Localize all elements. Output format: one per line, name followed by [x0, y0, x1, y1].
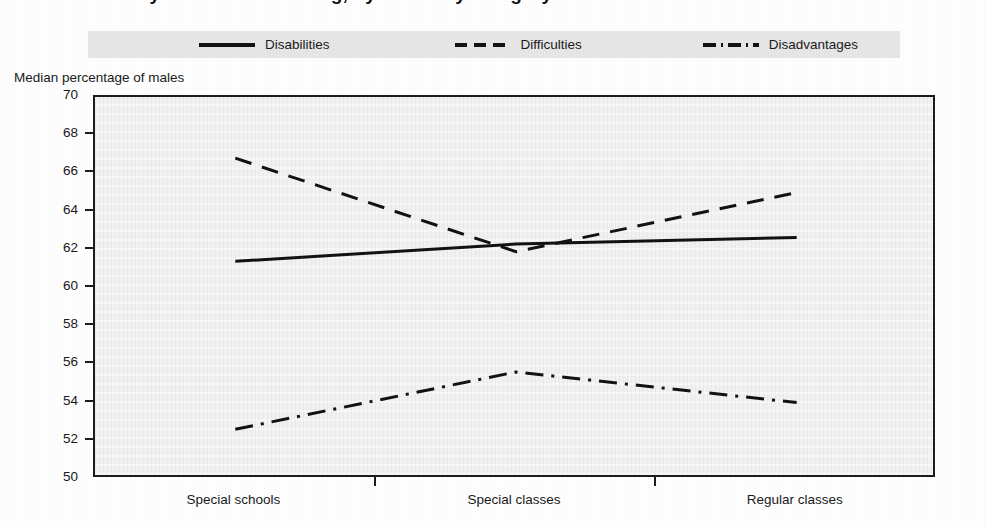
legend-item-difficulties: Difficulties: [454, 37, 582, 52]
y-tick-label: 70: [40, 88, 78, 102]
x-category-label: Regular classes: [747, 492, 843, 507]
y-tick-mark: [85, 209, 94, 211]
series-line-disadvantages: [235, 372, 796, 429]
y-tick-mark: [85, 438, 94, 440]
y-tick-mark: [85, 170, 94, 172]
series-line-disabilities: [235, 237, 796, 261]
page-background: Gender ratios by educational setting, by…: [0, 0, 985, 527]
series-line-difficulties: [235, 158, 796, 252]
y-axis-title: Median percentage of males: [14, 70, 184, 85]
y-tick-mark: [85, 247, 94, 249]
y-tick-mark: [85, 361, 94, 363]
legend-item-disabilities: Disabilities: [198, 37, 330, 52]
solid-line-swatch: [198, 39, 256, 51]
cropped-chart-title: Gender ratios by educational setting, by…: [0, 0, 985, 12]
y-tick-mark: [85, 132, 94, 134]
y-tick-mark: [85, 285, 94, 287]
y-tick-mark: [85, 400, 94, 402]
y-tick-label: 58: [40, 317, 78, 331]
chart-legend: Disabilities Difficulties Disadvantages: [88, 31, 900, 58]
y-tick-label: 54: [40, 394, 78, 408]
y-tick-mark: [85, 323, 94, 325]
chart-title-text: Gender ratios by educational setting, by…: [6, 0, 552, 5]
x-category-label: Special schools: [186, 492, 280, 507]
y-tick-label: 60: [40, 279, 78, 293]
legend-label-difficulties: Difficulties: [521, 37, 582, 52]
y-tick-label: 52: [40, 432, 78, 446]
dashed-line-swatch: [454, 39, 512, 51]
y-tick-label: 56: [40, 355, 78, 369]
y-tick-label: 64: [40, 203, 78, 217]
series-canvas: [95, 97, 935, 477]
legend-label-disadvantages: Disadvantages: [769, 37, 858, 52]
y-tick-label: 62: [40, 241, 78, 255]
y-tick-label: 68: [40, 126, 78, 140]
x-axis-separator: [654, 477, 656, 486]
y-tick-label: 50: [40, 470, 78, 484]
legend-item-disadvantages: Disadvantages: [702, 37, 858, 52]
y-tick-label: 66: [40, 164, 78, 178]
plot-area: [93, 95, 935, 477]
legend-label-disabilities: Disabilities: [265, 37, 330, 52]
dash-dot-line-swatch: [702, 39, 760, 51]
x-category-label: Special classes: [467, 492, 560, 507]
x-axis-separator: [374, 477, 376, 486]
